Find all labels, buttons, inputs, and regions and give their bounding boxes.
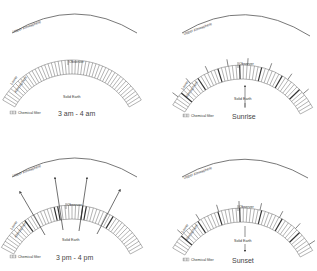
upper-atmosphere-label: Upper Atmosphere [183, 22, 213, 36]
legend-swatch [183, 258, 189, 261]
legend-label: Chemical filter [18, 111, 42, 115]
legend: Chemical filter [183, 114, 215, 118]
observer-label: Observer [239, 62, 255, 66]
sunlight-arrow-icon [55, 178, 63, 230]
upper-atmosphere-label: Upper Atmosphere [12, 164, 42, 178]
legend-swatch [10, 111, 16, 114]
time-label: Sunrise [232, 113, 256, 120]
time-label: Sunset [232, 257, 254, 264]
atmosphere-diagram: Upper Atmosphere Observer Lower Atmosphe… [0, 0, 317, 271]
legend-swatch [183, 114, 189, 117]
solid-earth-label: Solid Earth [234, 239, 252, 243]
observer-label: Observer [239, 205, 255, 209]
panel-3am: Upper Atmosphere Observer Lower Atmosphe… [3, 14, 142, 117]
legend-swatch [10, 255, 16, 258]
time-label: 3 pm - 4 pm [56, 254, 94, 262]
legend: Chemical filter [10, 255, 42, 259]
diagram-canvas: Upper Atmosphere Observer Lower Atmosphe… [0, 0, 317, 271]
panel-3pm: Upper Atmosphere Observer Lower Atmosphe… [1, 158, 142, 262]
time-label: 3 am - 4 am [58, 110, 96, 117]
upper-atmosphere-label: Upper Atmosphere [183, 166, 213, 180]
legend: Chemical filter [183, 258, 215, 262]
legend-label: Chemical filter [191, 114, 215, 118]
solid-earth-label: Solid Earth [234, 97, 252, 101]
upper-atmosphere-label: Upper Atmosphere [12, 20, 42, 34]
legend-label: Chemical filter [191, 258, 215, 262]
solid-earth-label: Solid Earth [62, 238, 80, 242]
observer-label: Observer [67, 203, 83, 207]
panel-sunrise: Upper Atmosphere Observer Lower Atmosphe… [173, 15, 313, 120]
sunlight-arrow-icon [97, 190, 120, 234]
panel-sunset: Upper Atmosphere Observer Lower Atmosphe… [173, 159, 315, 264]
legend: Chemical filter [10, 111, 42, 115]
observer-label: Observer [69, 60, 85, 64]
legend-label: Chemical filter [18, 255, 42, 259]
solid-earth-label: Solid Earth [63, 95, 81, 99]
